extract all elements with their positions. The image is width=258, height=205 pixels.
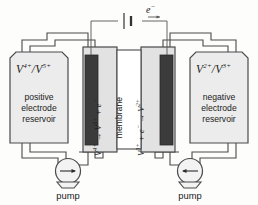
right-reservoir-name-line1: negative [184,92,254,102]
right-pump [178,159,203,189]
right-reservoir-ion-label: V2+/V3+ [196,62,231,76]
redox-flow-battery-diagram: e− V4+/V5+ positive electrode reservoir … [0,0,258,205]
right-reservoir-name-line3: reservoir [184,114,254,124]
positive-half-reaction: V4+ → V5+ + e− [92,99,103,156]
negative-half-reaction: V3+ + e− → V2+ [135,99,146,156]
electron-label: e− [146,3,155,16]
left-reservoir-name-line1: positive [4,92,74,102]
left-reservoir-ion-label: V4+/V5+ [16,62,51,76]
left-reservoir-name-line2: electrode [4,103,74,113]
right-reservoir-name-line2: electrode [184,103,254,113]
left-pump-label: pump [44,190,92,201]
left-pump [56,159,81,189]
membrane-label: membrane [114,97,124,138]
battery-cell-symbol [124,13,131,29]
right-pump-label: pump [166,190,214,201]
negative-electrode [160,55,173,145]
left-reservoir-name-line3: reservoir [4,114,74,124]
